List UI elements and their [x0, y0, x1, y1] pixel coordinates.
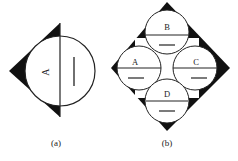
- circle-b-label: B: [164, 22, 170, 32]
- panel-a-caption: (a): [51, 138, 61, 148]
- figure-canvas: A (a) B A C D (: [0, 0, 238, 161]
- circle-a-label: A: [132, 57, 139, 67]
- panel-b-caption: (b): [162, 138, 173, 148]
- panel-a-label: A: [40, 68, 51, 76]
- panel-b: B A C D: [111, 2, 230, 131]
- circle-c-label: C: [193, 57, 199, 67]
- circle-b: B: [145, 10, 189, 54]
- panel-a: A: [9, 23, 95, 117]
- circle-d: D: [145, 79, 189, 123]
- circle-d-label: D: [164, 89, 170, 99]
